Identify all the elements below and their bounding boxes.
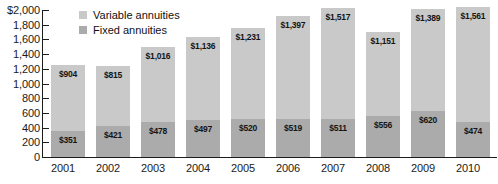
bar-value-label-fixed: $519 [276,124,310,133]
x-axis-tick-label: 2006 [266,161,310,175]
bar-group[interactable]: $474$1,561 [456,7,490,157]
y-axis-tick-label: $2,000 [7,5,40,15]
bar-value-label-variable: $1,517 [321,13,355,22]
bar-segment-variable[interactable] [276,16,310,119]
x-axis-tick-label: 2003 [131,161,175,175]
stacked-bar-chart: $2,0001,8001,6001,4001,2001,000800600400… [0,0,498,184]
x-axis-tick-label: 2005 [221,161,265,175]
y-axis-tick-label: 1,000 [13,79,40,89]
bar-segment-variable[interactable] [321,8,355,119]
x-axis-line [42,157,497,158]
bar-segment-variable[interactable] [411,9,445,111]
bar-group[interactable]: $351$904 [51,65,85,157]
x-axis-tick-label: 2007 [311,161,355,175]
bar-value-label-variable: $1,397 [276,21,310,30]
bar-value-label-fixed: $474 [456,127,490,136]
bar-group[interactable]: $478$1,016 [141,47,175,157]
x-axis-tick-label: 2001 [41,161,85,175]
bar-group[interactable]: $511$1,517 [321,8,355,157]
x-axis-tick-label: 2008 [356,161,400,175]
legend-label-fixed: Fixed annuities [93,24,167,36]
legend-item-fixed-annuities: Fixed annuities [79,23,259,36]
y-axis-tick-label: 200 [22,137,40,147]
bar-value-label-fixed: $511 [321,124,355,133]
bar-value-label-variable: $1,389 [411,14,445,23]
y-axis-tick-label: 0 [34,152,40,162]
y-axis-tick-label: 1,200 [13,64,40,74]
y-axis-tick-label: 1,800 [13,20,40,30]
x-axis-tick-label: 2004 [176,161,220,175]
y-axis-tick-label: 1,600 [13,34,40,44]
legend-swatch-icon-fixed [79,26,87,34]
bar-group[interactable]: $519$1,397 [276,16,310,157]
bar-value-label-fixed: $556 [366,121,400,130]
legend-swatch-icon-variable [79,11,87,19]
x-axis-tick-label: 2009 [401,161,445,175]
bar-segment-variable[interactable] [456,7,490,122]
bar-value-label-fixed: $421 [96,131,130,140]
y-axis-labels: $2,0001,8001,6001,4001,2001,000800600400… [0,0,40,184]
legend-label-variable: Variable annuities [93,9,180,21]
bar-value-label-fixed: $351 [51,136,85,145]
bar-value-label-variable: $1,016 [141,52,175,61]
x-axis-labels: 2001200220032004200520062007200820092010 [43,161,498,181]
bar-group[interactable]: $497$1,136 [186,37,220,157]
x-axis-tick-label: 2010 [446,161,490,175]
bar-value-label-fixed: $478 [141,127,175,136]
bar-value-label-fixed: $497 [186,125,220,134]
x-axis-tick-label: 2002 [86,161,130,175]
y-axis-tick-label: 400 [22,123,40,133]
y-axis-tick-mark [42,157,49,158]
bar-value-label-variable: $1,151 [366,37,400,46]
bar-value-label-variable: $815 [96,71,130,80]
chart-legend: Variable annuities Fixed annuities [79,8,259,38]
bar-value-label-variable: $904 [51,70,85,79]
legend-item-variable-annuities: Variable annuities [79,8,259,21]
bar-value-label-fixed: $620 [411,116,445,125]
bar-group[interactable]: $421$815 [96,66,130,157]
bar-value-label-variable: $1,136 [186,42,220,51]
bar-group[interactable]: $556$1,151 [366,32,400,157]
bar-value-label-variable: $1,561 [456,12,490,21]
bar-value-label-fixed: $520 [231,124,265,133]
bar-group[interactable]: $620$1,389 [411,9,445,157]
y-axis-tick-label: 1,400 [13,49,40,59]
y-axis-tick-label: 800 [22,93,40,103]
y-axis-tick-label: 600 [22,108,40,118]
bar-group[interactable]: $520$1,231 [231,28,265,157]
